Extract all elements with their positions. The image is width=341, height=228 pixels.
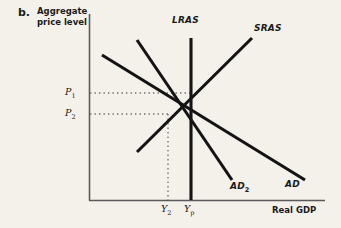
y-tick-label-p2-subscript: 2: [71, 113, 75, 121]
diagram-canvas: [0, 0, 341, 228]
curve-label-sras: SRAS: [254, 23, 282, 33]
x-tick-label-yp: Yp: [184, 203, 194, 217]
figure-panel: b. Aggregate price level Real GDP LRAS S…: [0, 0, 341, 228]
panel-letter: b.: [18, 6, 30, 19]
y-tick-label-p1-subscript: 1: [71, 92, 75, 100]
y-axis-title-line1: Aggregate: [37, 6, 87, 17]
x-tick-label-y2: Y2: [161, 203, 171, 217]
y-axis-title: Aggregate price level: [37, 6, 87, 27]
curve-ad: [102, 55, 305, 180]
curve-label-ad2-subscript: 2: [245, 186, 250, 194]
x-axis-title: Real GDP: [272, 205, 316, 215]
curve-label-ad: AD: [285, 179, 300, 189]
y-axis-title-line2: price level: [37, 17, 87, 28]
curve-ad2: [137, 40, 232, 180]
x-tick-label-yp-subscript: p: [190, 209, 194, 217]
x-tick-label-y2-subscript: 2: [167, 209, 171, 217]
y-tick-label-p1: P1: [65, 86, 76, 100]
curve-label-ad2-text: AD: [230, 181, 245, 191]
curve-sras: [137, 38, 252, 152]
curve-label-lras: LRAS: [172, 15, 199, 25]
curve-label-ad2: AD2: [230, 181, 250, 194]
y-tick-label-p2: P2: [65, 107, 76, 121]
